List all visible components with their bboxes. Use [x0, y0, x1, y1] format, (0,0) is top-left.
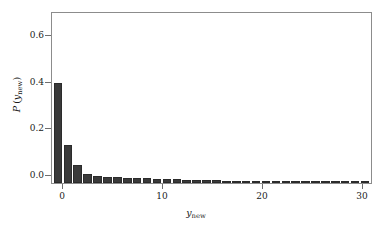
bar [133, 178, 142, 183]
x-tick-label-30: 30 [347, 191, 377, 201]
x-tick-label-20: 20 [247, 191, 277, 201]
x-tick-mark-20 [262, 184, 263, 189]
x-axis-label-subscript: new [192, 212, 206, 220]
x-tick-mark-10 [162, 184, 163, 189]
bar [182, 180, 191, 183]
bar [123, 178, 132, 183]
x-tick-label-0: 0 [47, 191, 77, 201]
x-axis-label: ynew [0, 207, 392, 220]
bar [232, 181, 241, 183]
bar [262, 181, 271, 183]
bar [301, 181, 310, 183]
y-axis-label-base: y [11, 95, 22, 100]
y-tick-label-0.0: 0.0 [14, 171, 44, 180]
bar [173, 179, 182, 183]
y-axis-label-open-paren: ( [11, 100, 22, 106]
bar [192, 180, 201, 183]
x-tick-mark-0 [62, 184, 63, 189]
x-tick-mark-30 [362, 184, 363, 189]
x-tick-label-10: 10 [147, 191, 177, 201]
bar [73, 165, 82, 183]
bar [212, 180, 221, 183]
figure-canvas: 0.6 0.4 0.2 0.0 0 10 20 30 ynew P (ynew) [0, 0, 392, 234]
bar [103, 177, 112, 183]
y-axis-label: P (ynew) [11, 35, 24, 155]
bar [222, 181, 231, 183]
bar [113, 177, 122, 183]
bar [93, 176, 102, 183]
bar [282, 181, 291, 183]
bar [361, 181, 370, 183]
y-axis-label-prefix: P [11, 106, 22, 112]
bar [202, 180, 211, 183]
bar [311, 181, 320, 183]
bar [351, 181, 360, 183]
bar [321, 181, 330, 183]
bar [242, 181, 251, 183]
bar [143, 178, 152, 183]
bar [153, 179, 162, 183]
bar [291, 181, 300, 183]
bar [54, 83, 63, 183]
bar [341, 181, 350, 183]
x-axis-label-base: y [186, 207, 191, 218]
bar [64, 145, 73, 183]
plot-area [51, 12, 372, 184]
bar [331, 181, 340, 183]
bar [163, 179, 172, 183]
bar [83, 174, 92, 183]
bar [252, 181, 261, 183]
bar-series [52, 13, 371, 183]
bar [272, 181, 281, 183]
y-axis-label-subscript: new [16, 81, 24, 95]
